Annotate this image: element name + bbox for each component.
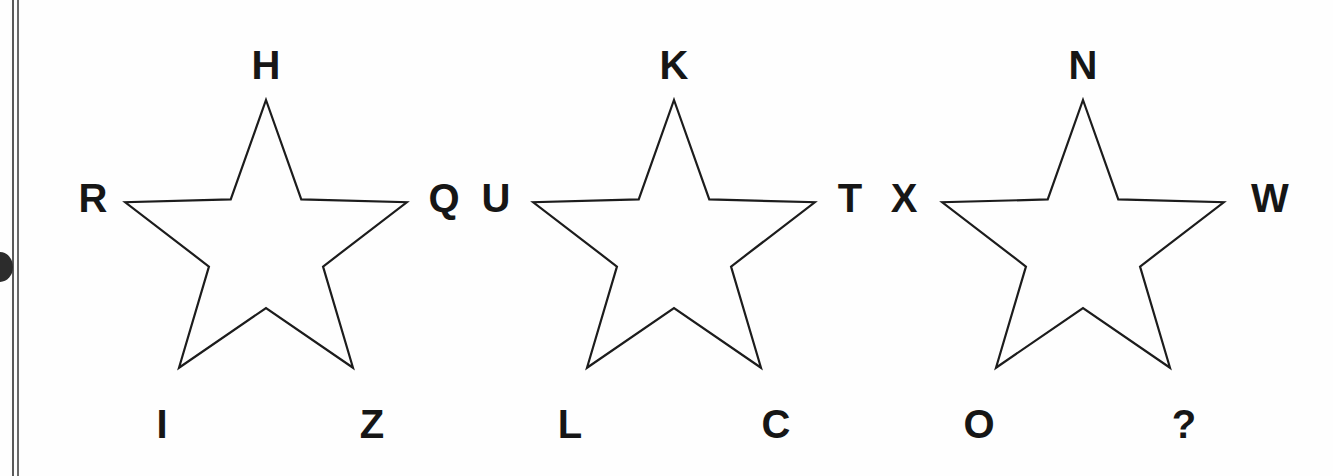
- vertex-labels-layer: H R Q I Z K U T L C N X W O ?: [0, 0, 1333, 476]
- star-1-vertex-label-left: R: [79, 178, 108, 218]
- star-3-vertex-label-top: N: [1069, 45, 1098, 85]
- star-3-vertex-label-bottom-left: O: [963, 404, 994, 444]
- star-2-vertex-label-bottom-right: C: [762, 404, 791, 444]
- star-1-vertex-label-bottom-left: I: [156, 404, 167, 444]
- star-2-vertex-label-bottom-left: L: [558, 404, 582, 444]
- star-2-vertex-label-top: K: [660, 45, 689, 85]
- puzzle-page: H R Q I Z K U T L C N X W O ?: [0, 0, 1333, 476]
- star-3-vertex-label-right: W: [1251, 178, 1289, 218]
- star-2-vertex-label-left: U: [482, 178, 511, 218]
- star-1-vertex-label-right: Q: [428, 178, 459, 218]
- star-1-vertex-label-bottom-right: Z: [360, 404, 384, 444]
- star-1-vertex-label-top: H: [252, 45, 281, 85]
- star-3-answer-marker: ?: [1172, 404, 1196, 444]
- star-2-vertex-label-right: T: [838, 178, 862, 218]
- star-3-vertex-label-left: X: [891, 178, 918, 218]
